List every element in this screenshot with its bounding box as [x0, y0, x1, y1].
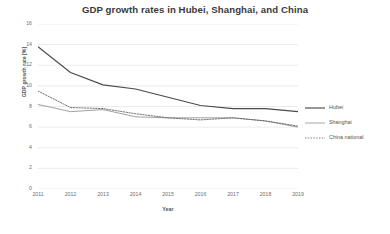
x-tick-label: 2011 — [32, 192, 43, 197]
x-tick-label: 2015 — [162, 192, 174, 197]
x-tick-label: 2014 — [130, 192, 142, 197]
y-tick-label: 2 — [29, 165, 32, 170]
x-tick-label: 2018 — [260, 192, 272, 197]
y-tick-label: 6 — [29, 124, 32, 129]
chart-container: GDP growth rates in Hubei, Shanghai, and… — [0, 0, 390, 234]
x-axis-tick-labels: 201120122013201420152016201720182019 — [38, 192, 298, 202]
legend-entry[interactable]: China national — [305, 130, 389, 145]
plot-svg — [38, 24, 298, 189]
series-line-hubei — [38, 47, 298, 112]
x-tick-label: 2019 — [292, 192, 304, 197]
x-tick-label: 2013 — [97, 192, 109, 197]
legend-label: Hubei — [329, 105, 343, 110]
legend-label: Shanghai — [329, 120, 352, 125]
y-tick-label: 16 — [26, 21, 32, 26]
chart-legend: HubeiShanghaiChina national — [305, 100, 389, 145]
x-tick-label: 2016 — [195, 192, 207, 197]
x-tick-label: 2012 — [65, 192, 77, 197]
legend-label: China national — [329, 135, 363, 140]
x-axis-title: Year — [38, 206, 298, 212]
y-tick-label: 14 — [26, 42, 32, 47]
plot-area — [38, 24, 298, 189]
y-tick-label: 8 — [29, 104, 32, 109]
legend-entry[interactable]: Hubei — [305, 100, 389, 115]
legend-swatch-hubei — [305, 104, 325, 112]
y-tick-label: 10 — [26, 83, 32, 88]
x-tick-label: 2017 — [227, 192, 239, 197]
y-tick-label: 4 — [29, 145, 32, 150]
chart-title: GDP growth rates in Hubei, Shanghai, and… — [0, 4, 390, 15]
y-axis-tick-labels: 0246810121416 — [0, 24, 36, 189]
legend-entry[interactable]: Shanghai — [305, 115, 389, 130]
legend-swatch-china-national — [305, 134, 325, 142]
legend-swatch-shanghai — [305, 119, 325, 127]
y-tick-label: 12 — [26, 62, 32, 67]
